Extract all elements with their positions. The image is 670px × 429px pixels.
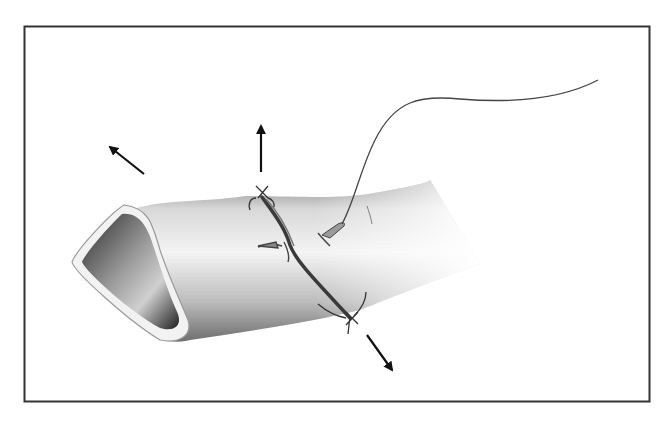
traction-arrow-down-right-icon bbox=[367, 335, 392, 370]
vessel bbox=[72, 180, 480, 342]
vessel-suture-illustration bbox=[0, 0, 670, 429]
traction-arrow-upper-left-icon bbox=[110, 147, 144, 174]
